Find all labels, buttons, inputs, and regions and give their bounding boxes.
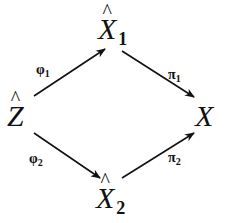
node-x2-hat: ^ X 2 bbox=[96, 183, 125, 217]
node-x: X bbox=[195, 101, 213, 131]
hat-accent: ^ bbox=[7, 88, 24, 108]
hat-accent: ^ bbox=[96, 170, 114, 190]
arrow-pi1 bbox=[122, 51, 194, 97]
hat-accent: ^ bbox=[98, 1, 116, 21]
label-pi1: π1 bbox=[168, 67, 181, 84]
node-z-hat: ^ Z bbox=[7, 101, 24, 131]
arrow-pi2 bbox=[122, 133, 194, 178]
label-phi1: φ1 bbox=[36, 62, 50, 79]
node-x1-hat: ^ X 1 bbox=[98, 14, 127, 48]
arrow-phi2 bbox=[34, 133, 100, 178]
label-pi2: π2 bbox=[168, 150, 181, 167]
label-phi2: φ2 bbox=[29, 151, 43, 168]
